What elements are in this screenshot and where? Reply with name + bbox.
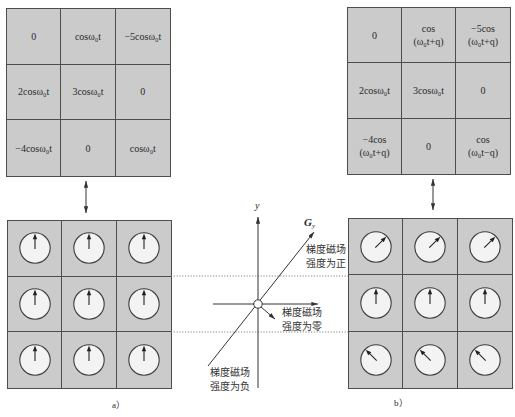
panel-b-label: b） — [394, 396, 408, 409]
spin-cell — [349, 332, 403, 388]
cell-value-line2: (ω₀t+q) — [359, 146, 389, 159]
spin-cell — [349, 275, 403, 331]
spin-cell — [458, 219, 512, 275]
spin-cell — [403, 332, 457, 388]
cell-value: 0 — [481, 84, 486, 97]
cell-value-line2: (ω₀t+q) — [413, 35, 443, 48]
gradient-subscript: y — [312, 222, 315, 230]
spin-cell — [349, 219, 403, 275]
panel-b-signal-matrix: 0 cos(ω₀t+q) −5cos(ω₀t+q) 2cosω₀t 3cosω₀… — [347, 7, 511, 175]
spin-vector-icon — [469, 344, 501, 376]
spin-vector-icon — [73, 288, 105, 320]
matrix-cell: 0 — [61, 120, 115, 176]
spin-vector-icon — [73, 232, 105, 264]
spin-vector-icon — [469, 231, 501, 263]
cell-value: 3cosω₀t — [413, 84, 444, 97]
spin-cell — [403, 275, 457, 331]
label-line: 梯度磁场 — [282, 306, 322, 320]
label-line: 强度为零 — [282, 320, 322, 334]
spin-vector-icon — [414, 231, 446, 263]
cell-value: 2cosω₀t — [18, 85, 49, 98]
panel-b-spin-grid — [348, 218, 513, 389]
spin-cell — [62, 332, 116, 388]
matrix-cell: 2cosω₀t — [7, 65, 61, 121]
matrix-cell: 0 — [116, 65, 170, 121]
label-gradient-positive: 梯度磁场 强度为正 — [306, 243, 346, 270]
gradient-label: Gy — [304, 216, 315, 230]
cell-value: 3cosω₀t — [72, 85, 103, 98]
spin-vector-icon — [469, 287, 501, 319]
matrix-cell: −5cosω₀t — [116, 9, 170, 65]
cell-value: −4cos — [363, 133, 387, 146]
cell-value: −4cosω₀t — [15, 142, 52, 155]
matrix-cell: cosω₀t — [61, 9, 115, 65]
spin-vector-icon — [19, 344, 51, 376]
cell-value: cos — [476, 133, 489, 146]
spin-cell — [117, 221, 171, 277]
origin-circle-icon — [254, 300, 262, 308]
label-line: 强度为正 — [306, 257, 346, 271]
matrix-cell: 0 — [402, 119, 456, 174]
spin-vector-icon — [360, 287, 392, 319]
matrix-cell: cosω₀t — [116, 120, 170, 176]
matrix-cell: 0 — [7, 9, 61, 65]
spin-cell — [117, 332, 171, 388]
cell-value-line2: (ω₀t−q) — [468, 146, 498, 159]
cell-value: cosω₀t — [130, 142, 156, 155]
label-gradient-negative: 梯度磁场 强度为负 — [210, 366, 250, 393]
spin-vector-icon — [73, 344, 105, 376]
matrix-cell: cos(ω₀t+q) — [402, 8, 456, 63]
spin-cell — [403, 219, 457, 275]
cell-value: 0 — [426, 140, 431, 153]
matrix-cell: 2cosω₀t — [348, 63, 402, 118]
matrix-cell: −5cos(ω₀t+q) — [456, 8, 510, 63]
matrix-cell: 3cosω₀t — [402, 63, 456, 118]
panel-a-spin-grid — [7, 220, 172, 389]
spin-vector-icon — [19, 288, 51, 320]
label-line: 强度为负 — [210, 380, 250, 394]
spin-cell — [8, 332, 62, 388]
label-gradient-zero: 梯度磁场 强度为零 — [282, 306, 322, 333]
matrix-cell: 0 — [456, 63, 510, 118]
label-line: 梯度磁场 — [306, 243, 346, 257]
spin-vector-icon — [19, 232, 51, 264]
cell-value: −5cos — [471, 22, 495, 35]
label-line: 梯度磁场 — [210, 366, 250, 380]
matrix-cell: 3cosω₀t — [61, 65, 115, 121]
cell-value: 0 — [372, 29, 377, 42]
spin-cell — [62, 277, 116, 333]
spin-vector-icon — [128, 288, 160, 320]
spin-cell — [8, 277, 62, 333]
cell-value: −5cosω₀t — [124, 30, 161, 43]
cell-value: cos — [422, 22, 435, 35]
spin-vector-icon — [414, 344, 446, 376]
spin-vector-icon — [360, 344, 392, 376]
gradient-line-arrow — [208, 232, 314, 366]
zero-point-vector-arrow — [261, 307, 275, 319]
spin-cell — [8, 221, 62, 277]
gradient-symbol: G — [304, 216, 312, 228]
spin-cell — [62, 221, 116, 277]
y-axis-label: y — [255, 200, 259, 211]
cell-value: 2cosω₀t — [359, 84, 390, 97]
spin-cell — [458, 275, 512, 331]
cell-value: 0 — [31, 30, 36, 43]
spin-vector-icon — [128, 232, 160, 264]
cell-value-line2: (ω₀t+q) — [468, 35, 498, 48]
matrix-cell: 0 — [348, 8, 402, 63]
cell-value: cosω₀t — [75, 30, 101, 43]
panel-a-signal-matrix: 0 cosω₀t −5cosω₀t 2cosω₀t 3cosω₀t 0 −4co… — [6, 8, 171, 177]
spin-cell — [458, 332, 512, 388]
panel-a-label: a） — [112, 398, 125, 411]
cell-value: 0 — [85, 142, 90, 155]
spin-vector-icon — [414, 287, 446, 319]
spin-vector-icon — [128, 344, 160, 376]
spin-cell — [117, 277, 171, 333]
cell-value: 0 — [140, 85, 145, 98]
matrix-cell: cos(ω₀t−q) — [456, 119, 510, 174]
matrix-cell: −4cos(ω₀t+q) — [348, 119, 402, 174]
matrix-cell: −4cosω₀t — [7, 120, 61, 176]
spin-vector-icon — [360, 231, 392, 263]
